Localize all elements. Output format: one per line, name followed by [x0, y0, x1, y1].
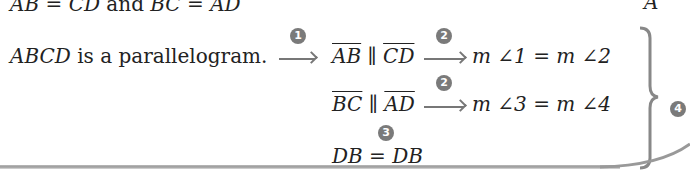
step-badge-4: 4: [670, 101, 686, 117]
step-badge-1: 1: [290, 28, 306, 44]
divider: [0, 165, 620, 169]
arrow-icon: [279, 58, 315, 60]
corner-label: A: [644, 0, 658, 14]
segment-ad: AD: [210, 0, 240, 16]
parallel-statement-1: AB ∥ CD: [332, 44, 414, 68]
segment-cd: CD: [69, 0, 100, 16]
arrow-icon: [424, 106, 464, 108]
parallel-statement-2: BC ∥ AD: [332, 92, 415, 116]
divider-curve: [600, 140, 690, 172]
segment-ab: AB: [10, 0, 39, 16]
step-badge-2: 2: [436, 28, 452, 44]
arrow-icon: [424, 58, 464, 60]
given-statement: ABCD is a parallelogram.: [10, 44, 267, 68]
angle-equality-2: m ∠3 = m ∠4: [472, 92, 611, 116]
angle-equality-1: m ∠1 = m ∠2: [472, 44, 611, 68]
step-badge-3: 3: [378, 125, 394, 141]
top-line: AB = CD and BC = AD: [10, 0, 241, 16]
step-badge-2: 2: [436, 75, 452, 91]
segment-bc: BC: [150, 0, 180, 16]
